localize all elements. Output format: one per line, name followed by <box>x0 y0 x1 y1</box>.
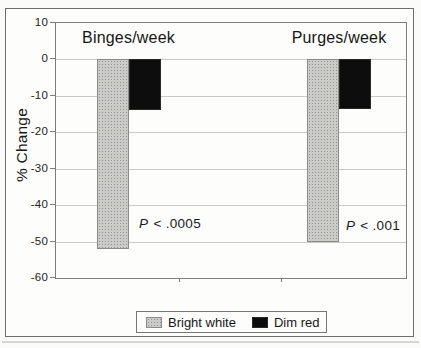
y-tick-label--50: -50 <box>4 235 48 247</box>
bar-bright-white-binges-week <box>97 59 129 248</box>
p-value-annotation-2: P < .001 <box>346 218 400 233</box>
legend-swatch-solid <box>252 317 268 328</box>
legend-item-dim-red: Dim red <box>252 315 320 330</box>
y-tick-mark--10 <box>50 95 55 96</box>
y-tick-mark-0 <box>50 58 55 59</box>
y-tick-mark--50 <box>50 241 55 242</box>
y-tick-label--40: -40 <box>4 198 48 210</box>
x-tick-mark-0 <box>179 278 180 282</box>
legend-swatch-stipple <box>146 317 162 328</box>
y-tick-mark--40 <box>50 204 55 205</box>
p-value-annotation-1: P < .0005 <box>139 216 201 231</box>
y-tick-mark--60 <box>50 277 55 278</box>
bar-dim-red-purges-week <box>339 59 371 108</box>
y-tick-mark--20 <box>50 131 55 132</box>
y-axis-title: % Change <box>13 108 31 182</box>
bar-dim-red-binges-week <box>129 59 161 110</box>
y-tick-label-10: 10 <box>4 16 48 28</box>
y-tick-label--10: -10 <box>4 89 48 101</box>
category-title-2: Purges/week <box>292 29 387 47</box>
y-tick-label--60: -60 <box>4 271 48 283</box>
bar-bright-white-purges-week <box>307 59 339 241</box>
category-title-1: Binges/week <box>82 29 175 47</box>
legend-label: Bright white <box>168 315 236 330</box>
legend: Bright whiteDim red <box>136 311 327 333</box>
light-therapy-bar-chart-figure: Binges/weekPurges/week P < .0005P < .001… <box>0 0 421 348</box>
y-tick-mark--30 <box>50 168 55 169</box>
y-tick-label-0: 0 <box>4 52 48 64</box>
scan-shadow-line <box>2 341 419 343</box>
x-tick-mark-1 <box>281 278 282 282</box>
legend-item-bright-white: Bright white <box>146 315 236 330</box>
y-tick-mark-10 <box>50 22 55 23</box>
legend-label: Dim red <box>274 315 320 330</box>
plot-area: Binges/weekPurges/week P < .0005P < .001 <box>55 22 407 279</box>
